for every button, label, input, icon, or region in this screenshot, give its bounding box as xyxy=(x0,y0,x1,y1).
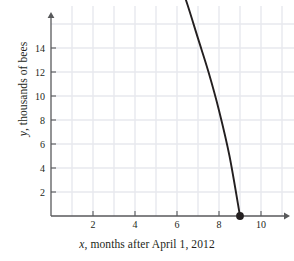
bee-population-chart: 2 4 6 8 10 2 4 6 8 10 12 14 y, thousands… xyxy=(0,0,294,261)
x-tick-label: 8 xyxy=(217,219,222,230)
y-axis-label-variable: y xyxy=(17,131,29,136)
y-tick-label: 12 xyxy=(35,67,45,78)
x-axis xyxy=(51,213,290,220)
x-tick-labels: 2 4 6 8 10 xyxy=(91,219,267,230)
y-tick-labels: 2 4 6 8 10 12 14 xyxy=(35,43,45,198)
x-tick-label: 4 xyxy=(133,219,138,230)
y-tick-label: 14 xyxy=(35,43,45,54)
y-tick-label: 8 xyxy=(40,115,45,126)
x-tick-label: 6 xyxy=(175,219,180,230)
x-axis-ticks xyxy=(93,211,261,216)
x-axis-label: x, months after April 1, 2012 xyxy=(0,238,294,250)
y-axis xyxy=(48,12,55,216)
y-tick-label: 10 xyxy=(35,91,45,102)
chart-svg: 2 4 6 8 10 2 4 6 8 10 12 14 xyxy=(0,0,294,261)
x-tick-label: 10 xyxy=(256,219,266,230)
y-tick-label: 6 xyxy=(40,139,45,150)
gridlines-horizontal xyxy=(51,24,294,192)
y-axis-label: y, thousands of bees xyxy=(17,9,29,169)
x-tick-label: 2 xyxy=(91,219,96,230)
marked-point-end xyxy=(236,212,244,220)
bee-population-curve xyxy=(51,0,240,216)
gridlines-vertical xyxy=(72,6,282,216)
x-axis-arrow-icon xyxy=(284,213,290,220)
y-axis-arrow-icon xyxy=(48,12,55,18)
y-tick-label: 2 xyxy=(40,187,45,198)
y-tick-label: 4 xyxy=(40,163,45,174)
y-axis-label-text: , thousands of bees xyxy=(17,42,29,131)
x-axis-label-text: , months after April 1, 2012 xyxy=(84,238,214,250)
y-axis-ticks xyxy=(51,48,56,192)
